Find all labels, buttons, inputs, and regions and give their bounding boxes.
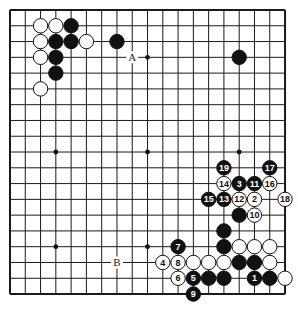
black-stone-5: 5 <box>186 271 200 285</box>
marker-a: A <box>128 51 136 63</box>
star-point-icon <box>53 150 58 155</box>
white-stone-icon <box>49 19 63 33</box>
black-stone <box>201 271 215 285</box>
black-stone-icon <box>64 34 78 48</box>
black-stone <box>64 34 78 48</box>
black-stone <box>49 34 63 48</box>
white-stone-icon <box>79 34 93 48</box>
white-stone <box>186 255 200 269</box>
white-stone <box>278 271 292 285</box>
white-stone-10: 10 <box>247 208 261 222</box>
white-stone-8: 8 <box>171 255 185 269</box>
black-stone-icon <box>49 66 63 80</box>
black-stone <box>110 34 124 48</box>
move-number: 16 <box>265 179 275 189</box>
marker-b: B <box>113 256 120 268</box>
white-stone <box>217 255 231 269</box>
white-stone-icon <box>247 240 261 254</box>
black-stone <box>49 50 63 64</box>
move-number: 5 <box>191 273 196 283</box>
move-number: 18 <box>280 194 290 204</box>
star-point-icon <box>53 244 58 249</box>
black-stone-icon <box>217 271 231 285</box>
black-stone <box>64 19 78 33</box>
white-stone <box>49 19 63 33</box>
white-stone <box>201 255 215 269</box>
black-stone <box>263 271 277 285</box>
move-number: 14 <box>219 179 229 189</box>
white-stone-14: 14 <box>217 176 231 190</box>
white-stone-icon <box>201 255 215 269</box>
black-stone <box>217 224 231 238</box>
black-stone-icon <box>263 271 277 285</box>
black-stone-17: 17 <box>263 161 277 175</box>
star-point-icon <box>145 150 150 155</box>
black-stone-icon <box>217 240 231 254</box>
go-board-diagram: AB 19171431116151312218107486519 <box>0 0 298 310</box>
black-stone-icon <box>232 50 246 64</box>
white-stone <box>33 82 47 96</box>
move-number: 2 <box>252 194 257 204</box>
black-stone-3: 3 <box>232 176 246 190</box>
white-stone-icon <box>186 255 200 269</box>
move-number: 4 <box>160 258 165 268</box>
white-stone-icon <box>232 240 246 254</box>
black-stone-icon <box>110 34 124 48</box>
white-stone-18: 18 <box>278 192 292 206</box>
move-number: 1 <box>252 273 257 283</box>
white-stone <box>33 34 47 48</box>
white-stone-icon <box>33 82 47 96</box>
move-number: 11 <box>250 179 260 189</box>
go-board: AB 19171431116151312218107486519 <box>0 0 298 310</box>
white-stone-icon <box>263 255 277 269</box>
white-stone <box>263 240 277 254</box>
black-stone-1: 1 <box>247 271 261 285</box>
black-stone <box>217 271 231 285</box>
white-stone <box>232 240 246 254</box>
star-point-icon <box>145 55 150 60</box>
black-stone <box>232 255 246 269</box>
black-stone-icon <box>247 255 261 269</box>
black-stone <box>49 66 63 80</box>
black-stone-13: 13 <box>217 192 231 206</box>
white-stone-12: 12 <box>232 192 246 206</box>
star-point-icon <box>237 150 242 155</box>
white-stone-icon <box>278 271 292 285</box>
white-stone-6: 6 <box>171 271 185 285</box>
white-stone <box>247 240 261 254</box>
white-stone-icon <box>33 50 47 64</box>
black-stone-7: 7 <box>171 240 185 254</box>
black-stone <box>217 240 231 254</box>
black-stone-icon <box>217 224 231 238</box>
white-stone-icon <box>263 240 277 254</box>
move-number: 19 <box>219 163 229 173</box>
white-stone-icon <box>33 19 47 33</box>
white-stone-icon <box>217 255 231 269</box>
move-number: 10 <box>249 210 259 220</box>
white-stone-icon <box>33 34 47 48</box>
move-number: 9 <box>191 289 196 299</box>
move-number: 7 <box>176 242 181 252</box>
move-number: 17 <box>265 163 275 173</box>
black-stone <box>247 255 261 269</box>
black-stone <box>232 208 246 222</box>
black-stone-icon <box>49 50 63 64</box>
black-stone-11: 11 <box>247 176 261 190</box>
white-stone <box>263 255 277 269</box>
white-stone <box>33 19 47 33</box>
white-stone-4: 4 <box>156 255 170 269</box>
move-number: 15 <box>204 194 214 204</box>
white-stone-2: 2 <box>247 192 261 206</box>
move-number: 3 <box>237 179 242 189</box>
move-number: 12 <box>234 194 244 204</box>
black-stone-icon <box>232 208 246 222</box>
black-stone-9: 9 <box>186 287 200 301</box>
white-stone <box>79 34 93 48</box>
black-stone-19: 19 <box>217 161 231 175</box>
move-number: 8 <box>176 258 181 268</box>
black-stone-15: 15 <box>201 192 215 206</box>
white-stone-16: 16 <box>263 176 277 190</box>
black-stone-icon <box>49 34 63 48</box>
black-stone-icon <box>64 19 78 33</box>
black-stone-icon <box>232 255 246 269</box>
